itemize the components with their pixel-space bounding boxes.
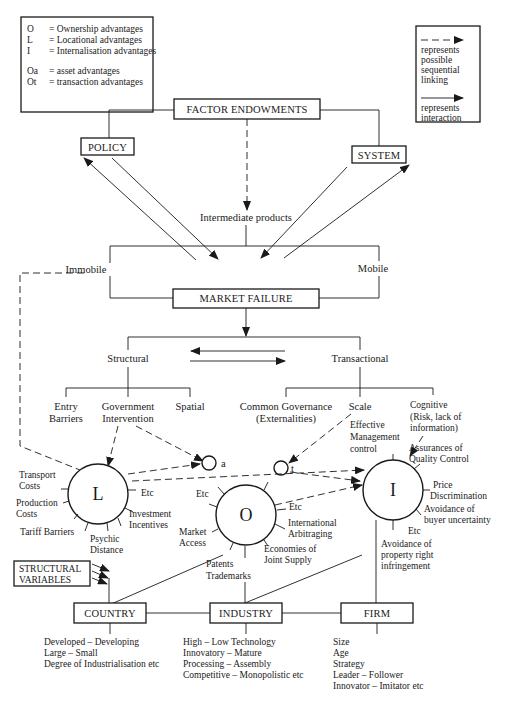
common-governance-label: Common Governance [240, 401, 333, 412]
legend-solid-text: interaction [421, 113, 462, 123]
transport-costs-label: Costs [19, 481, 40, 491]
effective-management-label: Effective [350, 420, 385, 430]
psychic-distance-label: Distance [90, 545, 123, 555]
avoidance-property-label: infringement [381, 561, 430, 571]
avoidance-property-label: Avoidance of [381, 539, 433, 549]
economies-joint-supply-label: Joint Supply [264, 555, 312, 565]
legend-line-types: represents possible sequential linking r… [416, 26, 480, 123]
oa-label: a [221, 458, 226, 469]
policy-label: POLICY [88, 142, 127, 153]
government-intervention-label: Intervention [102, 413, 154, 424]
country-attr: Degree of Industrialisation etc [44, 659, 159, 669]
structural-variables-label: STRUCTURAL [19, 564, 81, 574]
transport-costs-label: Transport [19, 470, 56, 480]
market-failure-label: MARKET FAILURE [199, 293, 292, 304]
industry-attr: Competitive – Monopolistic etc [183, 670, 304, 680]
industry-label: INDUSTRY [219, 608, 273, 619]
patents-trademarks-label: Trademarks [206, 571, 251, 581]
firm-attr: Age [333, 648, 349, 658]
legend-symbol-oa: Oa [27, 66, 39, 76]
legend-abbreviations: O = Ownership advantages L = Locational … [21, 17, 156, 112]
psychic-distance-label: Psychic [90, 534, 120, 544]
cognitive-label: (Risk, lack of [410, 412, 462, 423]
investment-incentives-label: Incentives [129, 520, 168, 530]
tariff-barriers-label: Tariff Barriers [20, 527, 75, 537]
firm-attr: Strategy [333, 659, 365, 669]
locational-advantages-circle: L [61, 464, 136, 531]
i-etc-label: Etc [408, 526, 421, 536]
international-arbitraging-label: International [288, 518, 337, 528]
legend-dashed-text: possible [421, 55, 452, 65]
firm-attr: Innovator – Imitator etc [333, 681, 423, 691]
structural-variables-label: VARIABLES [19, 575, 71, 585]
structural-label: Structural [107, 353, 148, 364]
effective-management-label: control [350, 444, 377, 454]
legend-def-o: = Ownership advantages [49, 24, 143, 34]
legend-def-i: = Internalisation advantages [49, 46, 156, 56]
legend-symbol-i: I [27, 46, 30, 56]
legend-solid-text: represents [421, 103, 460, 113]
country-label: COUNTRY [84, 608, 136, 619]
legend-symbol-ot: Ot [27, 77, 37, 87]
price-discrimination-label: Discrimination [430, 491, 487, 501]
legend-dashed-text: linking [421, 75, 448, 85]
effective-management-label: Management [350, 432, 400, 442]
entry-barriers-label: Entry [54, 401, 78, 412]
economies-joint-supply-label: Economies of [264, 544, 317, 554]
industry-attr: Processing – Assembly [183, 659, 271, 669]
common-governance-label: (Externalities) [256, 413, 317, 425]
cognitive-label: information) [410, 423, 458, 434]
transaction-advantage-circle [274, 461, 288, 475]
market-access-label: Market [179, 527, 207, 537]
scale-label: Scale [349, 401, 372, 412]
government-intervention-label: Government [102, 401, 155, 412]
assurances-quality-label: Assurances of [409, 443, 463, 453]
country-attr: Large – Small [44, 648, 98, 658]
avoidance-property-label: property right [381, 550, 434, 560]
circle-o-label: O [240, 505, 253, 525]
country-attr: Developed – Developing [44, 637, 139, 647]
avoidance-buyer-label: buyer uncertainty [424, 515, 491, 525]
legend-dashed-text: sequential [421, 65, 460, 75]
spatial-label: Spatial [175, 401, 204, 412]
transactional-label: Transactional [332, 353, 389, 364]
factor-endowments-label: FACTOR ENDOWMENTS [186, 104, 307, 115]
production-costs-label: Costs [16, 509, 37, 519]
mobile-label: Mobile [358, 263, 389, 274]
legend-def-l: = Locational advantages [49, 35, 142, 45]
intermediate-products-label: Intermediate products [200, 212, 292, 223]
avoidance-buyer-label: Avoidance of [424, 504, 476, 514]
l-etc-label: Etc [141, 488, 154, 498]
firm-label: FIRM [364, 608, 391, 619]
entry-barriers-label: Barriers [49, 413, 83, 424]
legend-symbol-o: O [27, 24, 34, 34]
eclectic-paradigm-diagram: O = Ownership advantages L = Locational … [0, 0, 506, 707]
system-label: SYSTEM [358, 150, 401, 161]
circle-l-label: L [93, 484, 104, 504]
cognitive-label: Cognitive [410, 400, 447, 410]
firm-attr: Leader – Follower [333, 670, 404, 680]
legend-symbol-l: L [27, 35, 33, 45]
market-access-label: Access [179, 538, 206, 548]
industry-attr: Innovatory – Mature [183, 648, 262, 658]
o-etc-right-label: Etc [289, 502, 302, 512]
investment-incentives-label: Investment [129, 509, 172, 519]
circle-i-label: I [390, 480, 396, 500]
legend-dashed-text: represents [421, 45, 460, 55]
legend-def-oa: = asset advantages [49, 66, 120, 76]
firm-attr: Size [333, 637, 349, 647]
price-discrimination-label: Price [433, 480, 453, 490]
o-etc-left-label: Etc [196, 489, 209, 499]
asset-advantage-circle [202, 456, 216, 470]
legend-def-ot: = transaction advantages [49, 77, 143, 87]
internalisation-advantages-circle: I [363, 454, 430, 530]
production-costs-label: Production [16, 498, 58, 508]
industry-attr: High – Low Technology [183, 637, 276, 647]
international-arbitraging-label: Arbitraging [288, 529, 333, 539]
assurances-quality-label: Quality Control [409, 454, 469, 464]
